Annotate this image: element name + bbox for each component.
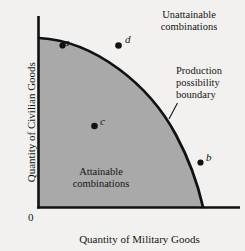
boundary-leader-line	[169, 103, 178, 119]
point-marker-d	[115, 42, 122, 49]
production-possibility-boundary-label: Production possibility boundary	[176, 65, 242, 100]
x-axis-label: Quantity of Military Goods	[37, 233, 242, 245]
y-axis-label: Quantity of Civilian Goods	[25, 32, 37, 212]
origin-label: 0	[28, 211, 34, 223]
ppf-figure: Unattainable combinations Production pos…	[0, 0, 245, 251]
point-label-c: c	[100, 115, 105, 127]
point-marker-c	[91, 123, 98, 130]
point-label-a: a	[64, 36, 70, 48]
point-marker-b	[197, 159, 203, 165]
attainable-combinations-label: Attainable combinations	[58, 166, 144, 190]
point-label-d: d	[125, 33, 131, 45]
point-label-b: b	[206, 151, 212, 163]
unattainable-combinations-label: Unattainable combinations	[137, 9, 241, 33]
